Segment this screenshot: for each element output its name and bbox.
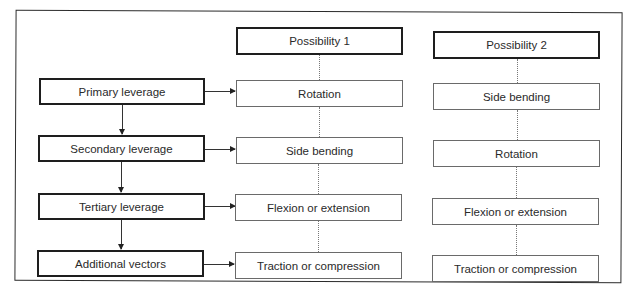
possibility-1-item-label: Rotation [298,88,341,100]
tertiary-leverage-label: Tertiary leverage [79,201,164,213]
possibility-1-header: Possibility 1 [236,27,403,55]
possibility-2-item: Flexion or extension [432,198,599,225]
possibility-2-item: Traction or compression [432,255,599,282]
possibility-2-item-label: Flexion or extension [464,206,567,218]
possibility-2-title: Possibility 2 [486,39,547,51]
possibility-1-item-label: Traction or compression [257,260,380,272]
possibility-2-item-label: Rotation [495,148,538,160]
additional-vectors-box: Additional vectors [37,250,204,277]
possibility-1-item: Rotation [236,80,403,107]
additional-vectors-label: Additional vectors [75,258,166,270]
possibility-1-item-label: Side bending [286,145,353,157]
dotted-connector [319,107,320,137]
dotted-connector [318,164,319,194]
arrow-down-icon [121,220,122,249]
tertiary-leverage-box: Tertiary leverage [38,193,205,220]
dotted-connector [517,59,518,83]
dotted-connector [318,221,319,252]
primary-leverage-box: Primary leverage [39,78,205,105]
dotted-connector [516,225,517,255]
arrow-right-icon [205,149,235,150]
arrow-down-icon [122,105,123,134]
arrow-right-icon [205,206,235,207]
dotted-connector [319,55,320,80]
possibility-1-item-label: Flexion or extension [267,202,370,214]
possibility-1-item: Side bending [236,137,403,164]
possibility-1-title: Possibility 1 [289,35,350,47]
primary-leverage-label: Primary leverage [79,86,166,98]
possibility-2-item-label: Side bending [483,91,550,103]
arrow-right-icon [205,91,235,92]
dotted-connector [516,167,517,198]
possibility-1-item: Traction or compression [235,252,402,279]
possibility-1-item: Flexion or extension [235,194,402,221]
possibility-2-item: Side bending [433,83,600,110]
arrow-down-icon [121,162,122,192]
secondary-leverage-label: Secondary leverage [70,143,172,155]
possibility-2-item-label: Traction or compression [454,263,577,275]
possibility-2-header: Possibility 2 [433,31,600,59]
arrow-right-icon [204,264,234,265]
dotted-connector [517,110,518,140]
possibility-2-item: Rotation [433,140,600,167]
secondary-leverage-box: Secondary leverage [38,135,205,162]
